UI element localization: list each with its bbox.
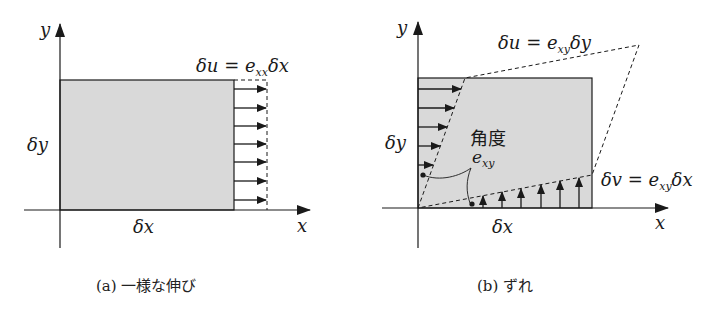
displacement-label: δu = exxδx xyxy=(196,55,289,79)
height-label: δy xyxy=(27,134,49,155)
caption-b: (b) ずれ xyxy=(477,274,533,295)
element-rectangle xyxy=(60,80,234,210)
strain-diagram: y x δy δx δu = exxδx xyxy=(0,0,727,318)
figure-a-uniform-extension: y x δy δx δu = exxδx xyxy=(24,19,310,248)
x-axis-label: x xyxy=(297,215,307,236)
y-axis-label: y xyxy=(396,17,408,38)
angle-dot-lower xyxy=(469,201,474,206)
x-axis-label: x xyxy=(655,212,665,233)
right-displacement-label: δv = exyδx xyxy=(601,169,693,193)
width-label: δx xyxy=(492,216,513,237)
displacement-arrows xyxy=(234,89,266,200)
angle-dot-upper xyxy=(420,172,425,177)
deformed-boundary xyxy=(234,80,267,210)
y-axis-label: y xyxy=(39,19,51,40)
width-label: δx xyxy=(133,216,154,237)
angle-label: 角度 xyxy=(470,128,506,149)
figure-b-shear: y x δy δx δu = exyδy δv = exyδx 角度 exy xyxy=(382,17,693,248)
height-label: δy xyxy=(385,132,407,153)
top-displacement-label: δu = exyδy xyxy=(498,32,592,56)
caption-a: (a) 一様な伸び xyxy=(96,274,196,295)
